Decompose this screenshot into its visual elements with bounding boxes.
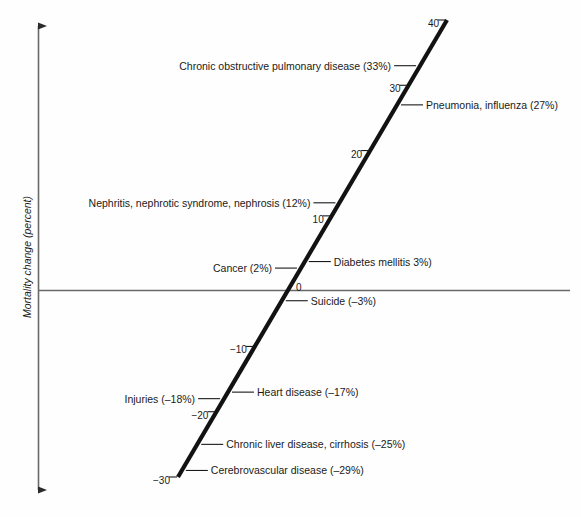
- axis-tick-label-30: 30: [389, 84, 400, 94]
- annotation-label: Injuries (–18%): [124, 394, 195, 405]
- annotation-label: Suicide (–3%): [311, 296, 376, 307]
- axis-tick-label--30: −30: [153, 476, 170, 486]
- chart-canvas: Mortality change (percent) 0 40302010−10…: [0, 0, 581, 517]
- annotation-label: Diabetes mellitis 3%): [334, 257, 432, 268]
- trend-line: [178, 20, 447, 477]
- axis-tick-label-10: 10: [313, 215, 324, 225]
- axis-tick-label--10: −10: [230, 345, 247, 355]
- axis-tick-label-0: 0: [296, 283, 302, 293]
- axis-tick-label--20: −20: [191, 411, 208, 421]
- annotation-label: Heart disease (–17%): [257, 387, 359, 398]
- annotation-label: Chronic liver disease, cirrhosis (–25%): [226, 439, 405, 450]
- annotation-label: Cancer (2%): [213, 263, 272, 274]
- annotation-label: Pneumonia, influenza (27%): [426, 100, 558, 111]
- annotation-label: Nephritis, nephrotic syndrome, nephrosis…: [89, 198, 311, 209]
- y-axis-title: Mortality change (percent): [22, 196, 33, 318]
- axis-tick-label-20: 20: [351, 150, 362, 160]
- annotation-label: Chronic obstructive pulmonary disease (3…: [179, 61, 391, 72]
- axis-tick-label-40: 40: [428, 19, 439, 29]
- annotation-label: Cerebrovascular disease (–29%): [211, 465, 364, 476]
